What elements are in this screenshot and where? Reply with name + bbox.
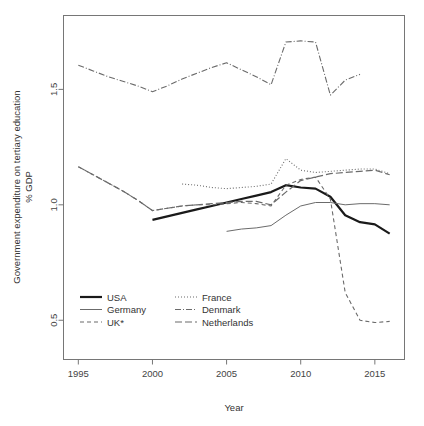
line-chart-canvas: 0.51.01.5 19952000200520102015 USAGerman… xyxy=(0,0,424,426)
legend-label-france: France xyxy=(202,292,232,303)
x-axis-ticks: 19952000200520102015 xyxy=(68,360,386,379)
y-axis-title-line1: Government expenditure on tertiary educa… xyxy=(11,90,22,283)
y-axis-title-line2: % GDP xyxy=(23,171,34,203)
x-tick-label: 2000 xyxy=(142,368,163,379)
y-axis-ticks: 0.51.01.5 xyxy=(48,83,63,327)
y-tick-label: 1.0 xyxy=(48,198,59,211)
y-tick-label: 1.5 xyxy=(48,83,59,96)
x-tick-label: 2010 xyxy=(290,368,311,379)
chart-legend: USAGermanyUK*FranceDenmarkNetherlands xyxy=(80,292,253,328)
legend-label-netherlands: Netherlands xyxy=(202,317,253,328)
legend-label-germany: Germany xyxy=(107,304,146,315)
x-axis-title: Year xyxy=(224,402,243,413)
y-tick-label: 0.5 xyxy=(48,314,59,327)
x-tick-label: 1995 xyxy=(68,368,89,379)
chart-figure: 0.51.01.5 19952000200520102015 USAGerman… xyxy=(0,0,424,426)
x-tick-label: 2005 xyxy=(216,368,237,379)
legend-label-uk: UK* xyxy=(107,317,124,328)
series-line-usa xyxy=(152,185,389,233)
series-line-denmark xyxy=(78,41,360,95)
series-line-germany xyxy=(227,203,390,232)
legend-label-denmark: Denmark xyxy=(202,304,241,315)
x-tick-label: 2015 xyxy=(364,368,385,379)
data-series-group xyxy=(78,41,389,323)
legend-label-usa: USA xyxy=(107,292,127,303)
